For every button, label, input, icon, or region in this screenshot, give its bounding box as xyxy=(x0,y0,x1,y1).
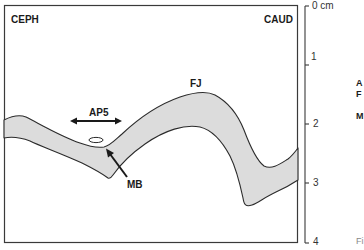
diagram-canvas xyxy=(0,0,364,250)
scale-tick-0: 0 cm xyxy=(312,0,334,11)
fj-label: FJ xyxy=(190,78,202,89)
caud-label: CAUD xyxy=(264,14,293,25)
mb-label: MB xyxy=(127,179,143,190)
legend-fragment-a: A xyxy=(356,78,363,88)
depth-scale-bar xyxy=(305,6,309,243)
ap5-label: AP5 xyxy=(89,107,108,118)
ceph-label: CEPH xyxy=(11,14,39,25)
legend-fragment-f: F xyxy=(356,89,362,99)
ap5-double-arrow-icon xyxy=(70,118,122,125)
figure-caption-fragment: Fi xyxy=(356,236,364,246)
legend-fragment-m: M xyxy=(356,111,364,121)
scale-tick-2: 2 xyxy=(313,118,319,129)
scale-tick-4: 4 xyxy=(313,236,319,247)
tissue-band xyxy=(4,93,298,206)
mb-ellipse xyxy=(89,137,103,142)
scale-tick-1: 1 xyxy=(311,51,317,62)
scale-tick-3: 3 xyxy=(313,177,319,188)
